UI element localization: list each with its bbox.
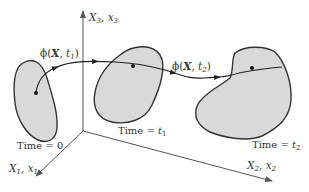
axis-label-x3: X3, x3	[89, 12, 118, 25]
caption-time-t2: Time = t2	[252, 140, 301, 152]
material-point-t0	[34, 91, 38, 95]
mapping-label-phi-t2: ϕ(X, t2)	[172, 61, 211, 74]
material-point-t1	[131, 64, 135, 68]
body-time-0	[14, 61, 57, 142]
material-point-t2	[250, 66, 254, 70]
caption-time-t1: Time = t1	[118, 126, 167, 138]
mapping-label-phi-t1: ϕ(X, t1)	[40, 48, 79, 61]
body-time-t1	[94, 47, 163, 123]
caption-time-0: Time = 0	[17, 141, 63, 151]
axis-label-x2: X2, x2	[247, 160, 276, 173]
axis-label-x1: X1, x1	[9, 163, 38, 176]
